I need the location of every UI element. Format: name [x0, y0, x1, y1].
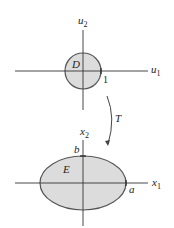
- region-E-label: E: [62, 163, 70, 175]
- diagram-canvas: u2 u1 D 1 T x2 x1 b E a: [0, 0, 174, 228]
- u2-axis-label: u2: [78, 14, 88, 29]
- unit-disk-diagram: u2 u1 D 1: [15, 14, 161, 110]
- transform-arrow: T: [105, 96, 122, 146]
- x1-axis-label: x1: [151, 176, 161, 191]
- arrowhead-icon: [105, 140, 110, 146]
- region-D-label: D: [71, 58, 80, 70]
- semi-major-a-label: a: [129, 183, 135, 195]
- semi-minor-b-label: b: [74, 143, 80, 155]
- curved-arrow: [107, 96, 112, 144]
- ellipse-diagram: x2 x1 b E a: [15, 125, 161, 226]
- u1-axis-label: u1: [151, 63, 161, 78]
- transform-T-label: T: [115, 112, 122, 124]
- x2-axis-label: x2: [79, 125, 89, 140]
- radius-one-label: 1: [103, 74, 108, 85]
